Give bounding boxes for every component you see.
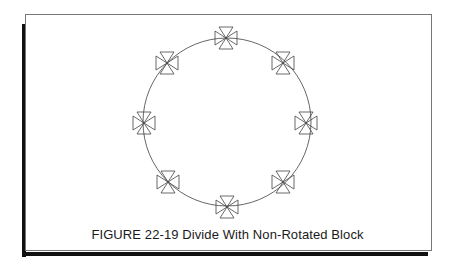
- figure-caption: FIGURE 22-19 Divide With Non-Rotated Blo…: [0, 227, 455, 242]
- block-upper-right: [272, 52, 294, 74]
- block-right: [295, 112, 317, 134]
- block-lower-right: [272, 171, 294, 193]
- divide-circle: [143, 38, 311, 206]
- block-bottom: [216, 196, 238, 218]
- block-upper-left: [156, 52, 178, 74]
- block-left: [133, 112, 155, 134]
- block-lower-left: [157, 171, 179, 193]
